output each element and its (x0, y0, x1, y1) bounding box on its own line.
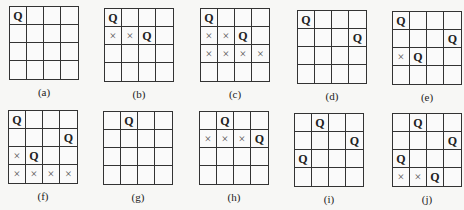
chess-board: QQ (297, 10, 367, 84)
queen-icon: Q (217, 112, 234, 130)
board-cell (329, 168, 346, 186)
attacked-cross-icon: × (60, 165, 77, 183)
board-cell (410, 12, 427, 30)
board-cell (61, 61, 78, 79)
board-cell (332, 29, 349, 47)
board-cell (156, 27, 173, 45)
board-cell (200, 166, 217, 184)
board-cell (298, 65, 315, 83)
board-cell (61, 7, 78, 25)
board-label: (a) (9, 86, 79, 98)
board-cell (298, 47, 315, 65)
board-panel-i: QQQ (i) (294, 113, 364, 187)
board-cell (444, 114, 461, 132)
board-cell (252, 27, 269, 45)
queen-icon: Q (60, 129, 77, 147)
chess-board: QQQ××Q (392, 113, 462, 187)
board-cell (122, 45, 139, 63)
attacked-cross-icon: × (217, 130, 234, 148)
queen-icon: Q (427, 168, 444, 186)
board-cell (44, 43, 61, 61)
queen-icon: Q (410, 114, 427, 132)
board-cell (393, 30, 410, 48)
board-cell (26, 111, 43, 129)
board-cell (104, 112, 121, 130)
board-cell (295, 114, 312, 132)
queen-icon: Q (393, 150, 410, 168)
chess-board: Q (103, 111, 173, 185)
attacked-cross-icon: × (218, 27, 235, 45)
board-cell (251, 112, 268, 130)
board-cell (427, 132, 444, 150)
board-cell (156, 45, 173, 63)
board-cell (349, 11, 366, 29)
attacked-cross-icon: × (235, 45, 252, 63)
board-label: (e) (392, 91, 462, 103)
attacked-cross-icon: × (393, 48, 410, 66)
board-cell (156, 63, 173, 81)
attacked-cross-icon: × (105, 27, 122, 45)
board-cell (60, 147, 77, 165)
board-cell (155, 112, 172, 130)
board-cell (44, 25, 61, 43)
board-cell (200, 112, 217, 130)
queen-icon: Q (105, 9, 122, 27)
queen-icon: Q (26, 147, 43, 165)
board-cell (43, 129, 60, 147)
attacked-cross-icon: × (200, 130, 217, 148)
attacked-cross-icon: × (43, 165, 60, 183)
board-cell (9, 129, 26, 147)
board-cell (26, 129, 43, 147)
chess-board: Q××Q (104, 8, 174, 82)
chess-board: Q (9, 6, 79, 80)
board-cell (349, 47, 366, 65)
board-cell (218, 63, 235, 81)
board-cell (138, 166, 155, 184)
board-label: (g) (103, 191, 173, 203)
board-cell (155, 130, 172, 148)
board-label: (b) (104, 88, 174, 100)
board-panel-g: Q (g) (103, 111, 173, 185)
board-cell (332, 65, 349, 83)
board-cell (122, 63, 139, 81)
board-cell (201, 63, 218, 81)
board-cell (346, 150, 363, 168)
board-cell (252, 9, 269, 27)
board-panel-j: QQQ××Q (j) (392, 113, 462, 187)
chess-board: QQQ (294, 113, 364, 187)
board-cell (61, 43, 78, 61)
board-cell (312, 150, 329, 168)
attacked-cross-icon: × (201, 27, 218, 45)
board-cell (155, 148, 172, 166)
board-cell (410, 66, 427, 84)
chess-board: QQ×Q×××× (8, 110, 78, 184)
board-cell (122, 9, 139, 27)
board-label: (f) (8, 190, 78, 202)
board-cell (105, 45, 122, 63)
board-cell (121, 166, 138, 184)
board-cell (138, 148, 155, 166)
board-cell (105, 63, 122, 81)
board-cell (121, 148, 138, 166)
queen-icon: Q (444, 132, 461, 150)
board-cell (104, 148, 121, 166)
attacked-cross-icon: × (201, 45, 218, 63)
board-cell (44, 61, 61, 79)
board-cell (234, 112, 251, 130)
attacked-cross-icon: × (252, 45, 269, 63)
board-cell (27, 7, 44, 25)
board-panel-d: QQ (d) (297, 10, 367, 84)
board-cell (295, 168, 312, 186)
board-cell (200, 148, 217, 166)
board-cell (61, 25, 78, 43)
board-panel-c: Q××Q×××× (c) (200, 8, 270, 82)
board-cell (444, 12, 461, 30)
board-cell (10, 25, 27, 43)
board-cell (315, 65, 332, 83)
board-cell (104, 166, 121, 184)
board-cell (295, 132, 312, 150)
board-cell (427, 150, 444, 168)
board-cell (427, 12, 444, 30)
board-panel-a: Q (a) (9, 6, 79, 80)
attacked-cross-icon: × (9, 147, 26, 165)
